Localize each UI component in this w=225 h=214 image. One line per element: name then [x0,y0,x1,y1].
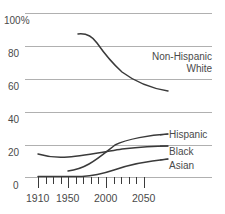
series-label-hispanic: Hispanic [169,130,207,140]
series-label-non-hispanic-white: Non-Hispanic White [120,51,212,74]
x-tick-label-2050: 2050 [132,193,155,204]
series-label-black: Black [169,147,193,157]
y-tick-label-80: 80 [8,49,19,59]
y-tick-label-0: 0 [13,181,19,191]
x-tick-label-2000: 2000 [94,193,117,204]
chart-plot-area [0,0,225,214]
label-leader-lines [160,134,168,160]
y-tick-label-100: 100% [4,16,30,26]
x-tick-label-1910: 1910 [26,193,49,204]
population-share-line-chart: 100% 80 60 40 20 0 1910 1950 2000 2050 N… [0,0,225,214]
series-line-asian [38,159,168,177]
series-line-hispanic [68,134,168,171]
series-label-non-hispanic-white-line2: White [120,63,212,75]
series-label-asian: Asian [169,161,194,171]
series-label-non-hispanic-white-line1: Non-Hispanic [120,51,212,63]
y-tick-label-40: 40 [8,115,19,125]
y-tick-label-60: 60 [8,82,19,92]
x-tick-label-1950: 1950 [56,193,79,204]
y-tick-label-20: 20 [8,148,19,158]
series-line-black [38,146,168,157]
x-axis-ticks [39,177,145,188]
